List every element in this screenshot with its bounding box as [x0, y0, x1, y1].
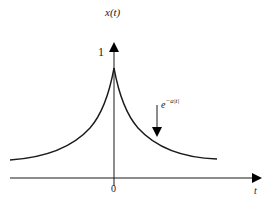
x-axis-arrowhead — [109, 42, 119, 52]
two-sided-exponential-diagram: x(t) 1 0 t e−a|t| — [0, 0, 272, 200]
y-axis-label: x(t) — [104, 6, 121, 19]
x-axis-label: t — [254, 185, 257, 196]
origin-label: 0 — [111, 183, 116, 194]
annotation-arrowhead — [152, 127, 162, 137]
annotation-exponent: −a|t| — [165, 97, 179, 105]
curve-left-branch — [10, 68, 114, 160]
curve-right-branch — [114, 68, 217, 159]
t-axis-arrowhead — [252, 173, 262, 183]
peak-label: 1 — [98, 45, 104, 59]
curve-annotation: e−a|t| — [161, 97, 180, 110]
